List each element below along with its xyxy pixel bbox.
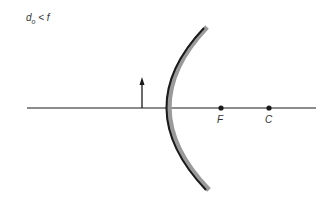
- focal-point-dot: [218, 105, 223, 110]
- object-arrow-head: [140, 77, 145, 85]
- center-of-curvature-dot: [266, 105, 271, 110]
- center-of-curvature-label: C: [265, 114, 272, 125]
- focal-point-label: F: [217, 114, 223, 125]
- concave-mirror-diagram: [0, 0, 329, 201]
